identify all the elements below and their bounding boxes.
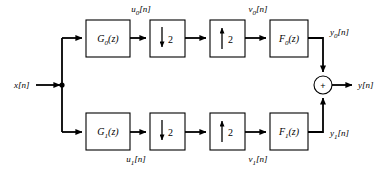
adder-plus-label: + — [320, 81, 325, 91]
signal-u0-label: u0[n] — [131, 4, 151, 17]
wire-f1-to-adder — [308, 98, 323, 132]
signal-v0-label: v0[n] — [248, 4, 268, 17]
downsample-factor-1: 2 — [168, 127, 173, 138]
output-signal-label: y[n] — [357, 80, 374, 90]
g0-arg: (z) — [108, 33, 119, 45]
signal-y0-label: y0[n] — [329, 27, 350, 40]
signal-y1-label: y1[n] — [329, 128, 350, 141]
input-signal-label: x[n] — [13, 80, 30, 90]
downsample-factor-0: 2 — [168, 34, 173, 45]
filter-bank-diagram: x[n] G0(z) u0[n] 2 2 v0[n] F0(z) y0[n] G… — [0, 0, 386, 170]
wire-f0-to-adder — [308, 38, 323, 72]
upsample-factor-1: 2 — [228, 127, 233, 138]
diagram-canvas: x[n] G0(z) u0[n] 2 2 v0[n] F0(z) y0[n] G… — [0, 0, 386, 170]
signal-u1-label: u1[n] — [126, 154, 146, 167]
upsample-factor-0: 2 — [228, 34, 233, 45]
g0-base: G — [97, 33, 104, 44]
signal-v1-label: v1[n] — [248, 154, 268, 167]
